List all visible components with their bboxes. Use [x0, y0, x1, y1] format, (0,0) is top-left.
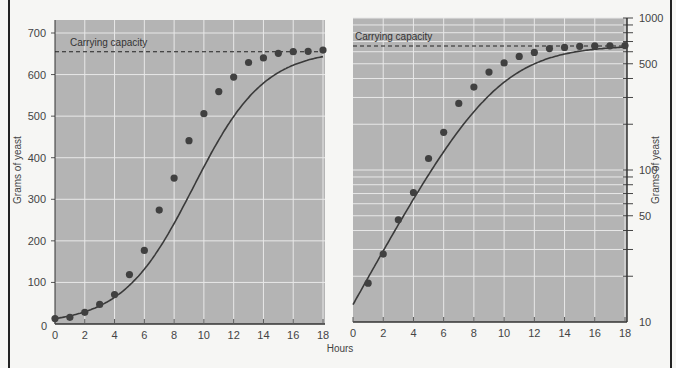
x-tick-label: 14 — [257, 329, 269, 341]
x-tick-label: 0 — [350, 327, 356, 339]
x-axis-title: Hours — [327, 343, 354, 354]
data-point — [546, 45, 553, 52]
data-point — [319, 46, 326, 53]
data-point — [455, 100, 462, 107]
data-point — [245, 59, 252, 66]
data-point — [96, 301, 103, 308]
x-tick-label: 16 — [589, 327, 601, 339]
x-tick-label: 2 — [82, 329, 88, 341]
data-point — [51, 315, 58, 322]
data-point — [66, 314, 73, 321]
data-point — [425, 155, 432, 162]
x-tick-label: 18 — [317, 329, 329, 341]
data-point — [485, 68, 492, 75]
x-tick-label: 12 — [528, 327, 540, 339]
data-point — [531, 49, 538, 56]
data-point — [260, 54, 267, 61]
x-tick-label: 12 — [228, 329, 240, 341]
data-point — [501, 59, 508, 66]
data-point — [185, 137, 192, 144]
carrying-capacity-label: Carrying capacity — [70, 37, 147, 48]
y-tick-label: 1000 — [639, 12, 663, 24]
x-tick-label: 18 — [619, 327, 631, 339]
data-point — [410, 189, 417, 196]
x-tick-label: 16 — [287, 329, 299, 341]
data-point — [395, 216, 402, 223]
data-point — [290, 48, 297, 55]
y-axis-title-left: Grams of yeast — [12, 136, 23, 204]
y-tick-label: 300 — [28, 193, 46, 205]
log-chart: 02468101214161810501005001000Carrying ca… — [350, 12, 664, 339]
y-tick-label: 400 — [28, 152, 46, 164]
data-point — [275, 50, 282, 57]
y-tick-label: 500 — [28, 110, 46, 122]
data-point — [576, 43, 583, 50]
y-tick-label: 0 — [41, 320, 47, 332]
x-tick-label: 6 — [441, 327, 447, 339]
data-point — [156, 206, 163, 213]
x-tick-label: 6 — [141, 329, 147, 341]
data-point — [230, 73, 237, 80]
data-point — [440, 129, 447, 136]
carrying-capacity-label: Carrying capacity — [355, 31, 432, 42]
data-point — [516, 53, 523, 60]
y-tick-label: 100 — [28, 276, 46, 288]
data-point — [380, 250, 387, 257]
y-tick-label: 200 — [28, 235, 46, 247]
data-point — [305, 48, 312, 55]
x-tick-label: 10 — [198, 329, 210, 341]
x-tick-label: 0 — [52, 329, 58, 341]
data-point — [126, 271, 133, 278]
y-axis-title-right: Grams of yeast — [650, 136, 661, 204]
data-point — [470, 84, 477, 91]
linear-chart: 0246810121416180100200300400500600700Car… — [28, 20, 329, 341]
data-point — [81, 309, 88, 316]
data-point — [200, 110, 207, 117]
y-tick-label: 10 — [639, 316, 651, 328]
x-tick-label: 4 — [410, 327, 416, 339]
x-tick-label: 4 — [111, 329, 117, 341]
plot-area — [55, 20, 325, 324]
x-tick-label: 14 — [558, 327, 570, 339]
data-point — [606, 42, 613, 49]
data-point — [171, 174, 178, 181]
data-point — [621, 42, 628, 49]
y-tick-label: 600 — [28, 69, 46, 81]
x-tick-label: 8 — [471, 327, 477, 339]
y-tick-label: 700 — [28, 27, 46, 39]
data-point — [111, 291, 118, 298]
data-point — [591, 42, 598, 49]
y-tick-label: 50 — [639, 210, 651, 222]
y-tick-label: 500 — [639, 58, 657, 70]
x-tick-label: 10 — [498, 327, 510, 339]
data-point — [365, 280, 372, 287]
x-tick-label: 2 — [380, 327, 386, 339]
x-tick-label: 8 — [171, 329, 177, 341]
data-point — [215, 88, 222, 95]
data-point — [561, 44, 568, 51]
data-point — [141, 247, 148, 254]
